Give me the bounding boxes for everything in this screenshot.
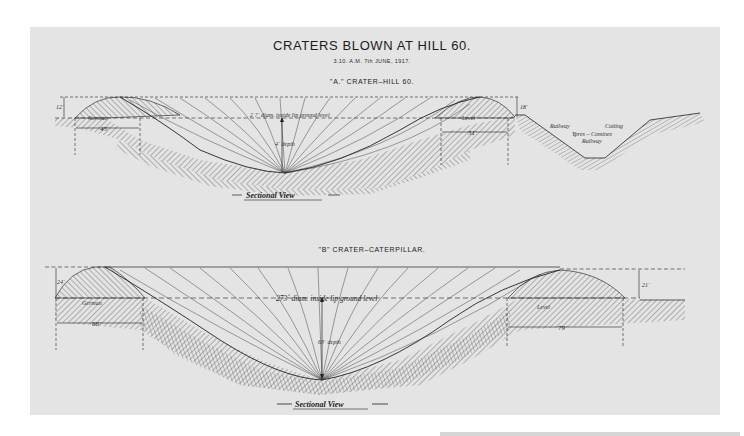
crater-a-right-lip-label: Level (461, 115, 475, 121)
railway-cutting (515, 113, 705, 170)
crater-b-right-height: 21´ (642, 282, 651, 288)
crater-a-caption: Sectional View (246, 191, 295, 200)
railway-label-1: Railway (549, 123, 570, 129)
crater-b-caption: Sectional View (295, 400, 344, 409)
crater-a-diameter-note: 2 ?´ diam. inside lip ground level (250, 112, 330, 118)
document-title: CRATERS BLOWN AT HILL 60. (273, 38, 471, 53)
crater-a-right-lip (435, 97, 515, 118)
crater-b-left-lip (55, 267, 145, 298)
crater-a-section: 2 ?´ diam. inside lip ground level 4´ de… (55, 97, 705, 200)
crater-b-diameter-note: 273´ diam. inside lip ground level (276, 294, 377, 303)
crater-b-depth-label: 63´ depth (318, 339, 341, 345)
railway-label-4: Railway (581, 138, 602, 144)
crater-a-strata (55, 118, 515, 190)
document-date: 3.10. A.M. 7th JUNE, 1917. (333, 58, 410, 64)
railway-label-3: Ypres – Comines (572, 131, 613, 137)
crater-a-right-width: 51´ (468, 129, 478, 137)
crater-a-heading: "A." CRATER–HILL 60. (330, 78, 414, 85)
crater-diagram: CRATERS BLOWN AT HILL 60. 3.10. A.M. 7th… (0, 0, 744, 436)
crater-a-left-height: 12´ (56, 104, 65, 110)
crater-b-left-height: 24´ (57, 279, 66, 285)
crater-b-right-lip-label: Level (536, 304, 550, 310)
crater-b-left-width: 66´ (92, 320, 102, 328)
crater-a-depth-label: 4´ depth (275, 141, 295, 147)
crater-b-left-lip-label: German (82, 300, 102, 306)
crater-b-right-lip (508, 270, 625, 298)
crater-b-heading: "B" CRATER–CATERPILLAR. (319, 246, 426, 253)
crater-b-right-width: 79´ (558, 324, 568, 332)
crater-a-left-lip-label: German (88, 115, 108, 121)
railway-label-2: Cutting (605, 123, 623, 129)
crater-a-right-height: 18´ (520, 104, 529, 110)
crater-b-section: 273´ diam. inside lip ground level 63´ d… (45, 267, 685, 409)
crater-a-left-width: 45´ (100, 125, 110, 133)
